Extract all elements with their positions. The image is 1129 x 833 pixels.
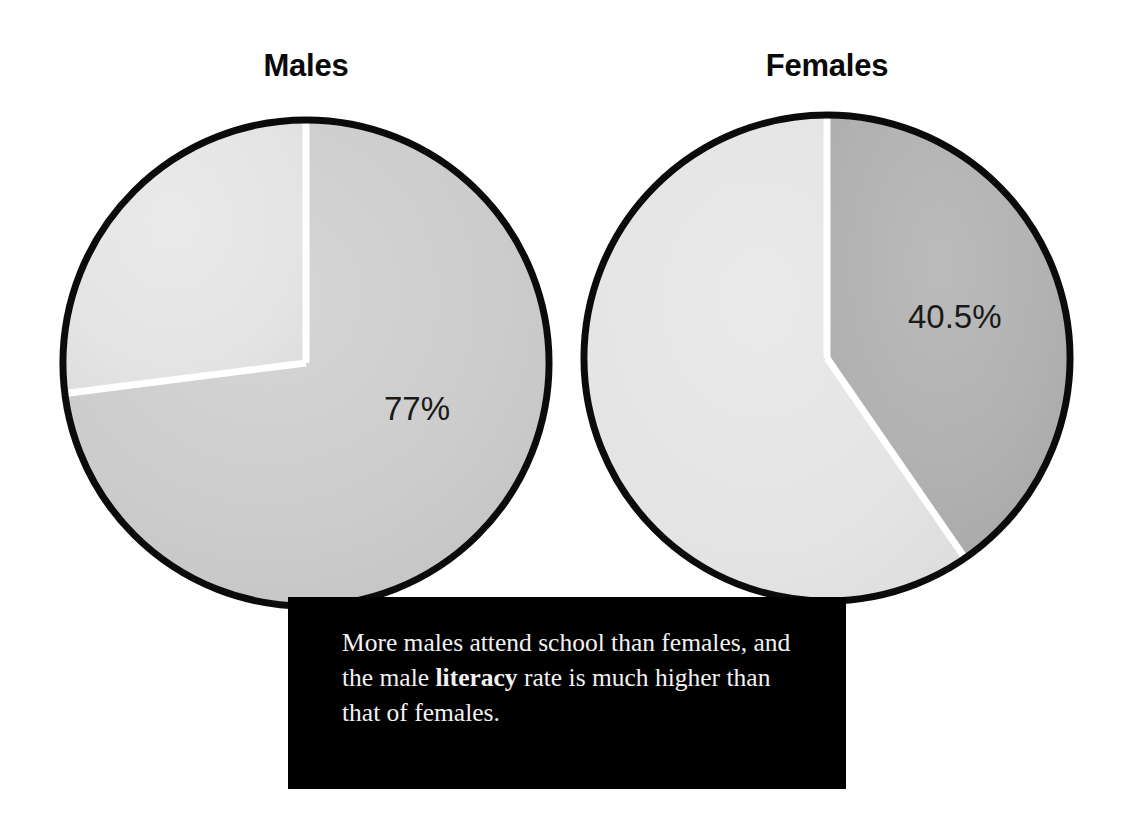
pie-females-value-label: 40.5%	[908, 298, 1002, 336]
pie-chart-males	[58, 115, 554, 611]
caption-box: More males attend school than females, a…	[288, 597, 846, 789]
chart-title-females: Females	[677, 48, 977, 84]
caption-emphasis: literacy	[435, 663, 517, 692]
pie-chart-females	[579, 110, 1075, 606]
chart-title-males: Males	[156, 48, 456, 84]
pie-males-slice-not-attending	[59, 117, 306, 394]
caption-text: More males attend school than females, a…	[342, 625, 802, 730]
pie-females-svg	[579, 110, 1075, 606]
pie-males-value-label: 77%	[384, 390, 450, 428]
pie-males-svg	[58, 115, 554, 611]
figure-canvas: Males Females	[0, 0, 1129, 833]
